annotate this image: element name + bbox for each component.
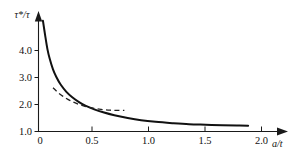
x-tick-label-0: 0 — [37, 135, 42, 146]
solid-curve — [43, 21, 248, 126]
x-tick-label-1p0: 1.0 — [142, 135, 155, 146]
x-tick-label-0p5: 0.5 — [85, 135, 98, 146]
x-axis-arrow-icon — [277, 128, 288, 136]
y-tick-label-2: 2.0 — [19, 99, 32, 110]
x-tick-label-1p5: 1.5 — [198, 135, 211, 146]
y-axis-title: τ*/τ — [15, 9, 30, 20]
x-axis-ticks — [92, 127, 262, 132]
y-tick-label-3: 3.0 — [19, 72, 32, 83]
x-axis-title: a/t — [272, 138, 283, 149]
x-tick-label-2p0: 2.0 — [255, 135, 268, 146]
y-tick-label-1: 1.0 — [19, 126, 32, 137]
chart-svg: 4.0 3.0 2.0 1.0 0 0.5 1.0 1.5 2.0 τ*/τ a… — [0, 0, 298, 155]
y-axis-arrow-icon — [35, 11, 42, 22]
y-tick-label-4: 4.0 — [19, 45, 32, 56]
figure-container: 4.0 3.0 2.0 1.0 0 0.5 1.0 1.5 2.0 τ*/τ a… — [0, 0, 298, 155]
y-axis-ticks — [35, 51, 39, 132]
